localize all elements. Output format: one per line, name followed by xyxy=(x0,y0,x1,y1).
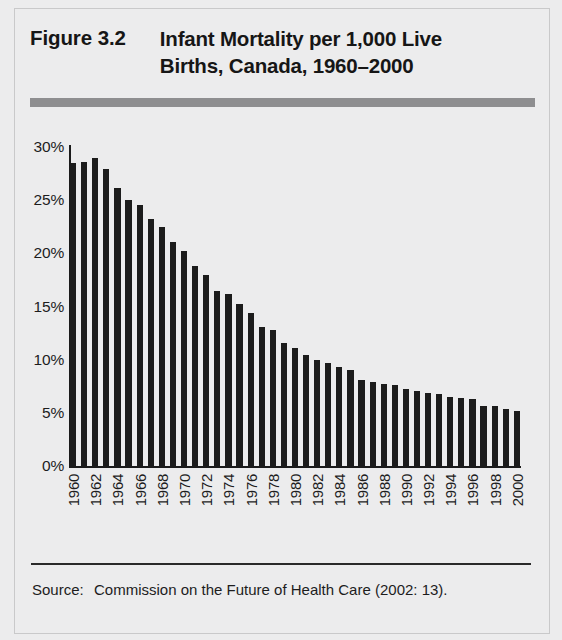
bar xyxy=(436,394,442,466)
y-axis-labels: 30%25%20%15%10%5%0% xyxy=(30,128,64,488)
plot-area xyxy=(70,147,520,466)
bar xyxy=(314,360,320,466)
bar xyxy=(259,327,265,466)
bar xyxy=(292,348,298,466)
figure-number: Figure 3.2 xyxy=(30,26,126,50)
bar xyxy=(447,397,453,466)
y-axis-tick-label: 5% xyxy=(42,404,64,422)
figure-header: Figure 3.2 Infant Mortality per 1,000 Li… xyxy=(30,26,536,79)
bar xyxy=(159,227,165,466)
bar xyxy=(225,294,231,466)
bar xyxy=(381,384,387,466)
bar xyxy=(125,200,131,466)
bar xyxy=(203,275,209,466)
bar xyxy=(114,188,120,466)
page-title: Infant Mortality per 1,000 Live Births, … xyxy=(160,26,442,79)
bar xyxy=(103,169,109,466)
y-axis-tick-label: 20% xyxy=(34,244,64,262)
source-text: Commission on the Future of Health Care … xyxy=(94,578,532,601)
y-axis-tick-label: 0% xyxy=(42,457,64,475)
bar xyxy=(336,367,342,466)
figure-title-line2: Births, Canada, 1960–2000 xyxy=(160,53,442,80)
bar xyxy=(458,398,464,466)
bar xyxy=(469,399,475,466)
bar xyxy=(236,304,242,466)
y-axis-tick-label: 10% xyxy=(34,351,64,369)
source-note: Source: Commission on the Future of Heal… xyxy=(32,578,532,601)
bar xyxy=(425,393,431,466)
source-label: Source: xyxy=(32,578,94,601)
bar xyxy=(192,266,198,466)
y-axis-tick-label: 15% xyxy=(34,298,64,316)
bar xyxy=(92,158,98,466)
footer-rule-divider xyxy=(31,563,531,565)
bar xyxy=(492,406,498,466)
bar-chart: 30%25%20%15%10%5%0% 19601962196419661968… xyxy=(30,128,530,488)
x-axis-line xyxy=(69,466,521,468)
bar xyxy=(403,389,409,466)
bar xyxy=(248,313,254,466)
bar xyxy=(170,242,176,466)
bar xyxy=(214,291,220,466)
bar xyxy=(514,411,520,466)
bar xyxy=(414,391,420,466)
y-axis-tick-label: 30% xyxy=(34,138,64,156)
bar xyxy=(181,251,187,466)
bar xyxy=(137,205,143,466)
bar-series xyxy=(70,147,520,466)
bar xyxy=(81,162,87,466)
bar xyxy=(392,385,398,466)
bar xyxy=(303,355,309,466)
x-axis-labels: 1960196219641966196819701972197419761978… xyxy=(70,472,520,542)
bar xyxy=(281,343,287,466)
figure-title-line1: Infant Mortality per 1,000 Live xyxy=(160,27,442,50)
bar xyxy=(480,406,486,466)
figure-page: Figure 3.2 Infant Mortality per 1,000 Li… xyxy=(0,0,562,640)
header-rule-divider xyxy=(30,98,535,107)
y-axis-tick-label: 25% xyxy=(34,191,64,209)
bar xyxy=(358,380,364,466)
bar xyxy=(347,370,353,466)
bar xyxy=(370,382,376,466)
bar xyxy=(503,409,509,466)
bar xyxy=(70,163,76,466)
bar xyxy=(270,330,276,466)
bar xyxy=(325,363,331,466)
bar xyxy=(148,219,154,466)
